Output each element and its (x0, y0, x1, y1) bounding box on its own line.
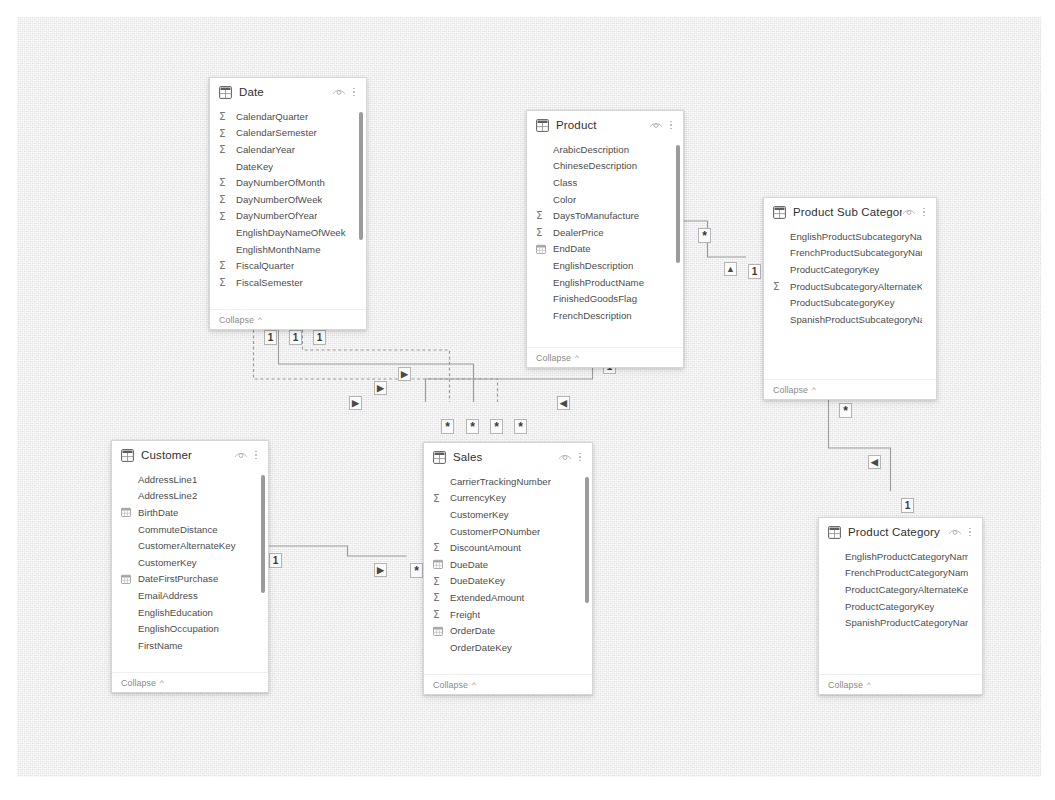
relationship-direction-arrow[interactable]: ▲ (724, 262, 737, 276)
kebab-menu-icon[interactable] (666, 118, 676, 132)
kebab-menu-icon[interactable] (575, 450, 585, 464)
field-row[interactable]: FirstName (112, 637, 268, 654)
eye-icon[interactable] (558, 450, 572, 464)
cardinality-marker-one[interactable]: 1 (264, 330, 277, 345)
field-list-scrollbar[interactable] (261, 475, 265, 668)
field-row[interactable]: ΣDiscountAmount (424, 539, 592, 556)
field-row[interactable]: ProductCategoryAlternateKey (819, 581, 982, 598)
field-row[interactable]: ΣDayNumberOfMonth (210, 174, 366, 191)
field-row[interactable]: AddressLine1 (112, 471, 268, 488)
field-row[interactable]: Class (527, 174, 683, 191)
cardinality-marker-one[interactable]: 1 (289, 330, 302, 345)
table-card[interactable]: Product Sub CategoryEnglishProductSubcat… (763, 197, 937, 400)
eye-icon[interactable] (902, 205, 916, 219)
field-row[interactable]: ΣDayNumberOfWeek (210, 191, 366, 208)
field-row[interactable]: ΣDueDateKey (424, 573, 592, 590)
field-row[interactable]: EnglishMonthName (210, 241, 366, 258)
field-row[interactable]: ΣProductSubcategoryAlternateKey (764, 278, 936, 295)
scrollbar-thumb[interactable] (676, 145, 680, 263)
table-card[interactable]: CustomerAddressLine1AddressLine2BirthDat… (111, 440, 269, 693)
field-row[interactable]: ΣFreight (424, 606, 592, 623)
field-row[interactable]: CustomerKey (424, 506, 592, 523)
relationship-direction-arrow[interactable]: ▶ (349, 396, 362, 410)
field-row[interactable]: Color (527, 191, 683, 208)
field-row[interactable]: ΣCalendarSemester (210, 125, 366, 142)
relationship-direction-arrow[interactable]: ◀ (557, 396, 570, 410)
field-row[interactable]: BirthDate (112, 504, 268, 521)
field-row[interactable]: ΣExtendedAmount (424, 589, 592, 606)
field-row[interactable]: EnglishDayNameOfWeek (210, 224, 366, 241)
relationship-direction-arrow[interactable]: ▶ (374, 563, 387, 577)
field-row[interactable]: ΣDayNumberOfYear (210, 208, 366, 225)
table-card-header[interactable]: Customer (112, 441, 268, 469)
field-row[interactable]: ArabicDescription (527, 141, 683, 158)
field-row[interactable]: FrenchProductSubcategoryName (764, 245, 936, 262)
cardinality-marker-many[interactable]: * (466, 419, 479, 434)
kebab-menu-icon[interactable] (965, 525, 975, 539)
cardinality-marker-many[interactable]: * (698, 228, 711, 243)
field-row[interactable]: CarrierTrackingNumber (424, 473, 592, 490)
table-card[interactable]: DateΣCalendarQuarterΣCalendarSemesterΣCa… (209, 77, 367, 330)
cardinality-marker-many[interactable]: * (410, 563, 423, 578)
field-row[interactable]: ΣDaysToManufacture (527, 207, 683, 224)
field-row[interactable]: DueDate (424, 556, 592, 573)
cardinality-marker-many[interactable]: * (839, 403, 852, 418)
field-row[interactable]: EnglishProductSubcategoryNa… (764, 228, 936, 245)
collapse-button[interactable]: Collapse^ (819, 674, 982, 694)
field-row[interactable]: ProductSubcategoryKey (764, 294, 936, 311)
field-row[interactable]: EnglishProductCategoryName (819, 548, 982, 565)
field-row[interactable]: ΣDealerPrice (527, 224, 683, 241)
field-row[interactable]: FrenchProductCategoryName (819, 565, 982, 582)
collapse-button[interactable]: Collapse^ (527, 347, 683, 367)
field-row[interactable]: DateKey (210, 158, 366, 175)
table-card[interactable]: SalesCarrierTrackingNumberΣCurrencyKeyCu… (423, 442, 593, 695)
field-row[interactable]: ΣCurrencyKey (424, 490, 592, 507)
field-row[interactable]: ProductCategoryKey (819, 598, 982, 615)
eye-icon[interactable] (332, 85, 346, 99)
cardinality-marker-one[interactable]: 1 (313, 330, 326, 345)
kebab-menu-icon[interactable] (349, 85, 359, 99)
relationship-direction-arrow[interactable]: ▶ (374, 381, 387, 395)
kebab-menu-icon[interactable] (251, 448, 261, 462)
eye-icon[interactable] (649, 118, 663, 132)
field-row[interactable]: OrderDateKey (424, 639, 592, 656)
field-row[interactable]: DateFirstPurchase (112, 571, 268, 588)
field-row[interactable]: ΣFiscalSemester (210, 274, 366, 291)
field-row[interactable]: CustomerPONumber (424, 523, 592, 540)
cardinality-marker-many[interactable]: * (441, 419, 454, 434)
table-card-header[interactable]: Sales (424, 443, 592, 471)
collapse-button[interactable]: Collapse^ (424, 674, 592, 694)
cardinality-marker-many[interactable]: * (514, 419, 527, 434)
eye-icon[interactable] (948, 525, 962, 539)
field-row[interactable]: CustomerKey (112, 554, 268, 571)
collapse-button[interactable]: Collapse^ (764, 379, 936, 399)
collapse-button[interactable]: Collapse^ (112, 672, 268, 692)
scrollbar-thumb[interactable] (261, 475, 265, 593)
cardinality-marker-one[interactable]: 1 (748, 264, 761, 279)
field-row[interactable]: FinishedGoodsFlag (527, 290, 683, 307)
cardinality-marker-one[interactable]: 1 (901, 498, 914, 513)
field-row[interactable]: FrenchDescription (527, 307, 683, 324)
scrollbar-thumb[interactable] (359, 112, 363, 240)
field-row[interactable]: SpanishProductSubcategoryNa… (764, 311, 936, 328)
relationship-direction-arrow[interactable]: ▶ (398, 367, 411, 381)
field-row[interactable]: EnglishDescription (527, 257, 683, 274)
table-card-header[interactable]: Product Category (819, 518, 982, 546)
field-row[interactable]: SpanishProductCategoryName (819, 614, 982, 631)
table-card-header[interactable]: Product (527, 111, 683, 139)
eye-icon[interactable] (234, 448, 248, 462)
field-row[interactable]: EnglishProductName (527, 274, 683, 291)
field-row[interactable]: ΣFiscalQuarter (210, 257, 366, 274)
field-list-scrollbar[interactable] (359, 112, 363, 305)
field-row[interactable]: EmailAddress (112, 587, 268, 604)
field-row[interactable]: AddressLine2 (112, 488, 268, 505)
table-card-header[interactable]: Product Sub Category (764, 198, 936, 226)
field-row[interactable]: EnglishEducation (112, 604, 268, 621)
field-row[interactable]: OrderDate (424, 622, 592, 639)
field-row[interactable]: EndDate (527, 241, 683, 258)
table-card[interactable]: ProductArabicDescriptionChineseDescripti… (526, 110, 684, 368)
field-list-scrollbar[interactable] (676, 145, 680, 343)
collapse-button[interactable]: Collapse^ (210, 309, 366, 329)
field-row[interactable]: ProductCategoryKey (764, 261, 936, 278)
field-row[interactable]: ΣCalendarYear (210, 141, 366, 158)
